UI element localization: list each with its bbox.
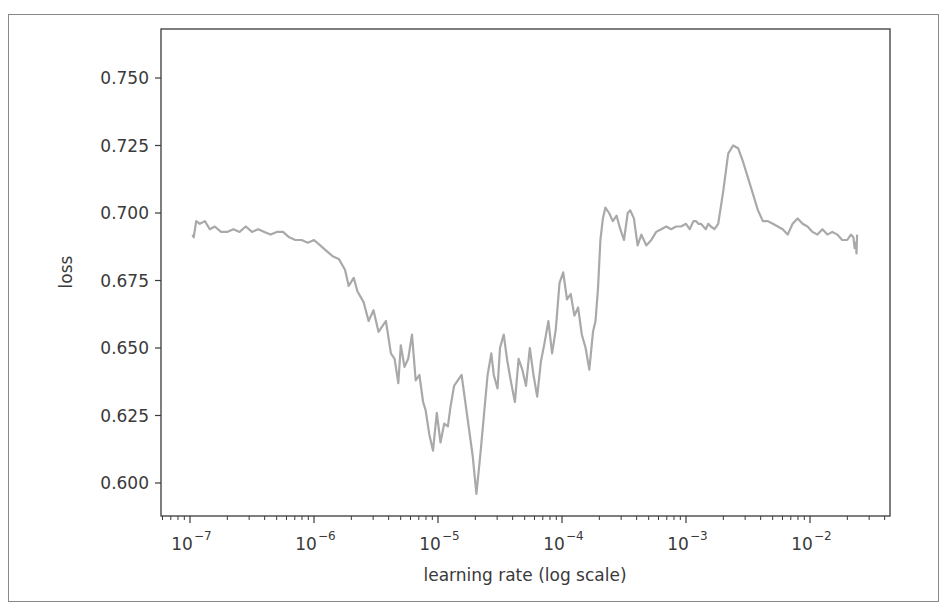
x-tick-label: 10: [543, 534, 565, 554]
x-tick-exponent: −7: [194, 529, 212, 543]
y-tick-label: 0.725: [100, 136, 149, 156]
y-tick-label: 0.700: [100, 203, 149, 223]
plot-area: [161, 29, 890, 516]
x-tick-exponent: −6: [318, 529, 336, 543]
x-tick-label: 10: [295, 534, 317, 554]
y-axis-label: loss: [56, 255, 76, 288]
x-tick-exponent: −5: [442, 529, 460, 543]
x-axis-label: learning rate (log scale): [423, 565, 626, 585]
loss-vs-learning-rate-chart: 0.6000.6250.6500.6750.7000.7250.750 10−7…: [0, 0, 947, 612]
x-tick-label: 10: [171, 534, 193, 554]
y-tick-label: 0.675: [100, 271, 149, 291]
y-tick-label: 0.625: [100, 406, 149, 426]
y-tick-label: 0.650: [100, 338, 149, 358]
x-tick-label: 10: [419, 534, 441, 554]
x-tick-exponent: −4: [566, 529, 584, 543]
y-tick-label: 0.750: [100, 68, 149, 88]
x-tick-label: 10: [791, 534, 813, 554]
x-tick-exponent: −2: [814, 529, 832, 543]
y-tick-label: 0.600: [100, 473, 149, 493]
x-tick-label: 10: [667, 534, 689, 554]
x-axis-ticks: 10−710−610−510−410−310−2: [171, 516, 832, 554]
x-tick-exponent: −3: [690, 529, 708, 543]
y-axis-ticks: 0.6000.6250.6500.6750.7000.7250.750: [100, 68, 161, 493]
